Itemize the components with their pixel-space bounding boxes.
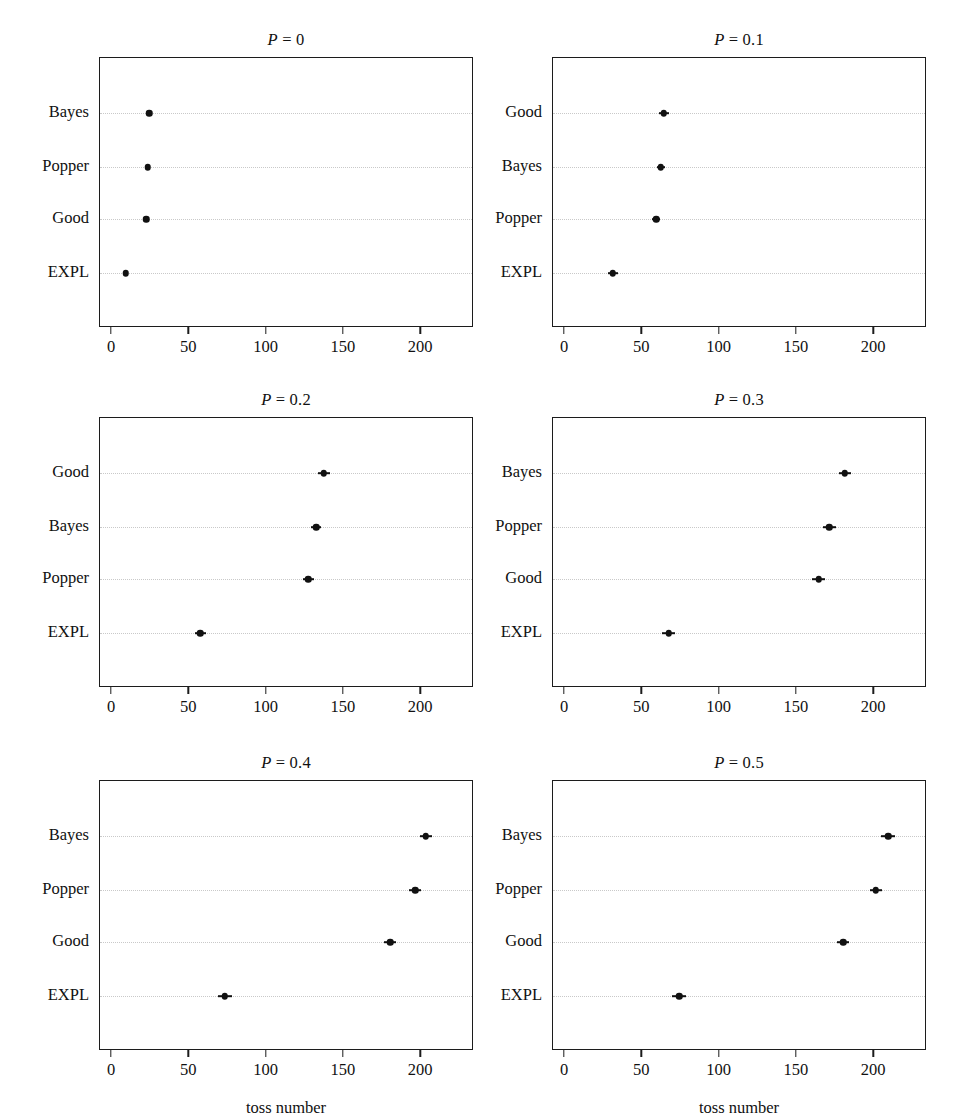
panel-title: P = 0.5 <box>552 753 926 773</box>
data-point <box>885 833 892 840</box>
panel-title-variable: P <box>714 753 724 772</box>
y-axis-category-label: Bayes <box>456 825 542 845</box>
x-axis-title: toss number <box>699 1098 779 1117</box>
x-axis-tick-label: 50 <box>633 1060 650 1080</box>
x-axis-tick <box>563 1050 564 1057</box>
panel-title-equals: = <box>729 753 739 772</box>
data-point <box>676 993 683 1000</box>
y-axis-category-label: EXPL <box>456 985 542 1005</box>
y-axis-category-label: Good <box>456 931 542 951</box>
panel-title-value: 0.5 <box>743 753 764 772</box>
x-axis-tick <box>718 1050 719 1057</box>
x-axis-tick <box>641 1050 642 1057</box>
gridline <box>553 942 925 943</box>
gridline <box>553 996 925 997</box>
x-axis-tick-label: 200 <box>861 1060 886 1080</box>
gridline <box>553 836 925 837</box>
x-axis-tick-label: 0 <box>560 1060 568 1080</box>
plot-area <box>552 780 926 1050</box>
data-point <box>872 887 879 894</box>
x-axis-tick-label: 100 <box>706 1060 731 1080</box>
x-axis-tick <box>795 1050 796 1057</box>
x-axis-tick-label: 150 <box>784 1060 809 1080</box>
x-axis-tick <box>872 1050 873 1057</box>
data-point <box>840 939 847 946</box>
y-axis-category-label: Popper <box>456 879 542 899</box>
